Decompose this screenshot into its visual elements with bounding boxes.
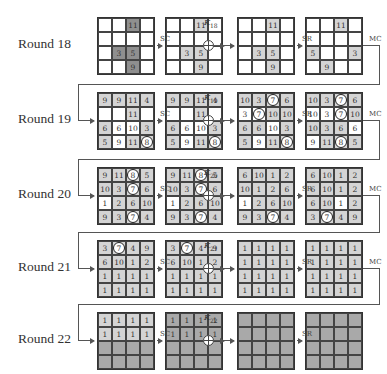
state-cell — [166, 18, 180, 32]
state-cell: 1 — [320, 269, 334, 283]
state-cell: 11 — [334, 18, 348, 32]
mc-wire — [379, 45, 380, 84]
cell-value: 6 — [131, 199, 136, 208]
state-cell: 11 — [126, 93, 140, 107]
cell-value: 1 — [131, 272, 136, 281]
state-cell: 2 — [112, 196, 126, 210]
cell-value: 9 — [257, 138, 262, 147]
mc-label: MC — [369, 110, 382, 118]
state-cell — [98, 60, 112, 74]
state-cell — [280, 18, 294, 32]
state-cell: 3 — [180, 46, 194, 60]
cell-value: 5 — [103, 138, 108, 147]
state-cell — [306, 341, 320, 355]
state-cell: 1 — [98, 269, 112, 283]
state-cell: 1 — [140, 313, 154, 327]
state-cell: 3 — [252, 46, 266, 60]
xor-out-arrow — [214, 340, 234, 341]
cell-value: 6 — [145, 185, 150, 194]
cell-value: 4 — [285, 213, 290, 222]
state-cell: 1 — [320, 241, 334, 255]
state-cell: 1 — [208, 283, 222, 297]
state-cell: 10 — [306, 93, 320, 107]
state-cell — [320, 46, 334, 60]
state-cell: 9 — [98, 93, 112, 107]
cell-value: 1 — [353, 244, 358, 253]
key-index: 19 — [210, 97, 218, 104]
state-cell: 1 — [348, 269, 362, 283]
state-cell: 9 — [306, 135, 320, 149]
cell-value: 11 — [336, 21, 346, 30]
state-cell — [238, 60, 252, 74]
xor-icon — [203, 190, 214, 201]
cell-value: 7 — [127, 183, 139, 195]
state-cell — [180, 355, 194, 369]
cell-value: 3 — [285, 124, 290, 133]
state-cell: 1 — [306, 283, 320, 297]
cell-value: 3 — [145, 124, 150, 133]
sc-arrow — [157, 120, 162, 121]
cell-value: 3 — [311, 213, 316, 222]
mc-wire — [78, 159, 380, 160]
state-cell: 1 — [334, 255, 348, 269]
state-cell: 1 — [252, 182, 266, 196]
state-cell — [140, 60, 154, 74]
state-cell: 9 — [112, 93, 126, 107]
state-cell — [348, 341, 362, 355]
state-cell: 1 — [140, 327, 154, 341]
state-cell: 2 — [180, 196, 194, 210]
state-cell — [280, 327, 294, 341]
state-cell — [238, 46, 252, 60]
cell-value: 2 — [271, 185, 276, 194]
state-cell: 11 — [126, 18, 140, 32]
state-cell: 10 — [348, 107, 362, 121]
cell-value: 8 — [141, 136, 153, 148]
state-cell-circled: 7 — [112, 241, 126, 255]
cell-value: 1 — [243, 272, 248, 281]
state-cell — [252, 341, 266, 355]
state-cell: 2 — [252, 196, 266, 210]
cell-value: 4 — [199, 244, 204, 253]
state-cell: 10 — [238, 182, 252, 196]
cell-value: 1 — [243, 258, 248, 267]
state-cell: 1 — [348, 255, 362, 269]
state-cell — [98, 18, 112, 32]
state-cell: 1 — [266, 255, 280, 269]
state-cell: 2 — [348, 182, 362, 196]
state-cell — [334, 355, 348, 369]
cell-value: 1 — [325, 272, 330, 281]
state-cell: 6 — [252, 121, 266, 135]
state-cell — [140, 355, 154, 369]
state-cell — [180, 341, 194, 355]
cell-value: 1 — [243, 244, 248, 253]
cell-value: 1 — [339, 199, 344, 208]
state-cell — [334, 313, 348, 327]
state-cell — [280, 46, 294, 60]
state-cell: 1 — [334, 196, 348, 210]
cell-value: 1 — [353, 286, 358, 295]
state-cell: 1 — [166, 269, 180, 283]
xor-icon — [203, 40, 214, 51]
mc-wire — [78, 304, 380, 305]
cell-value: 6 — [103, 258, 108, 267]
cell-value: 1 — [145, 272, 150, 281]
state-cell — [140, 46, 154, 60]
cell-value: 10 — [282, 110, 292, 119]
state-cell: 1 — [334, 269, 348, 283]
state-cell — [126, 355, 140, 369]
cell-value: 9 — [103, 171, 108, 180]
cell-value: 5 — [131, 49, 136, 58]
cell-value: 6 — [285, 96, 290, 105]
cell-value: 9 — [353, 213, 358, 222]
state-cell: 1 — [112, 327, 126, 341]
cell-value: 1 — [243, 286, 248, 295]
cell-value: 3 — [171, 244, 176, 253]
cell-value: 9 — [185, 96, 190, 105]
state-cell: 6 — [180, 121, 194, 135]
state-cell — [166, 60, 180, 74]
state-cell: 3 — [348, 46, 362, 60]
cell-value: 1 — [339, 185, 344, 194]
cell-value: 10 — [128, 124, 138, 133]
state-cell — [280, 60, 294, 74]
cell-value: 9 — [145, 244, 150, 253]
